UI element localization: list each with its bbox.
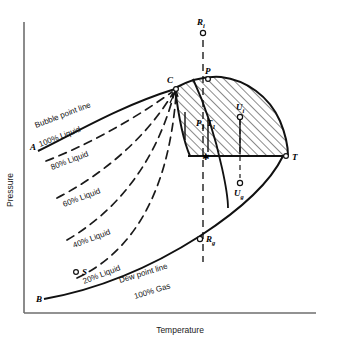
label-rg-sub: g — [211, 239, 216, 246]
x-axis-label: Temperature — [156, 325, 204, 335]
marker-c — [174, 87, 179, 92]
label-ug-sub: g — [240, 193, 245, 200]
label-ri-main: R — [196, 17, 203, 27]
marker-ui — [237, 114, 242, 119]
phase-diagram-figure: Pressure Temperature — [0, 0, 340, 344]
label-ri-sub: i — [203, 22, 205, 29]
label-point-c: C — [167, 75, 174, 85]
star-marker-p1t1: ✱ — [202, 152, 210, 162]
label-rg-main: R — [205, 234, 212, 244]
label-point-p: P — [205, 66, 211, 76]
label-point-rg: Rg — [205, 234, 216, 246]
label-t1-sub: 1 — [212, 123, 215, 130]
label-100-gas: 100% Gas — [133, 281, 171, 301]
quality-line-80-liquid — [46, 92, 172, 161]
phase-diagram-svg: Pressure Temperature — [0, 0, 340, 344]
label-point-ug: Ug — [234, 188, 245, 200]
marker-t — [284, 154, 289, 159]
label-point-b: B — [35, 294, 42, 304]
label-60-liquid: 60% Liquid — [61, 186, 101, 209]
label-point-a: A — [29, 142, 36, 152]
curve-text-labels: Bubble point line 100% Liquid 80% Liquid… — [33, 100, 171, 301]
marker-p — [206, 77, 211, 82]
marker-s — [74, 270, 79, 275]
label-p1-sub: 1 — [202, 123, 205, 130]
label-80-liquid: 80% Liquid — [49, 149, 89, 172]
shaded-two-phase-region — [160, 60, 310, 180]
marker-ug — [237, 180, 242, 185]
label-point-ri: Ri — [196, 17, 205, 29]
label-dew-point-line: Dew point line — [118, 261, 169, 284]
svg-text:✱: ✱ — [202, 152, 210, 162]
marker-rg — [197, 236, 202, 241]
label-point-s: S — [82, 267, 87, 277]
y-axis-label: Pressure — [5, 173, 15, 207]
label-ui-sub: i — [243, 107, 245, 114]
label-point-t: T — [292, 152, 298, 162]
marker-ri — [200, 30, 205, 35]
label-20-liquid: 20% Liquid — [81, 263, 121, 286]
quality-lines-group — [46, 92, 176, 278]
label-40-liquid: 40% Liquid — [71, 227, 111, 250]
label-bubble-point-line: Bubble point line — [33, 100, 92, 130]
label-100-liquid: 100% Liquid — [37, 125, 81, 149]
